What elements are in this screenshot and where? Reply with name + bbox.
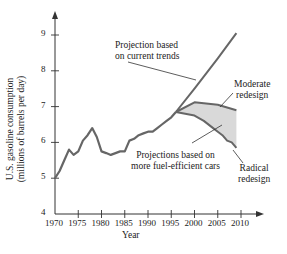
annotation-fuel-efficient: Projections based on more fuel-efficient… <box>131 150 220 172</box>
proj-leader <box>128 62 196 80</box>
annotation-fuel-efficient-line1: Projections based on <box>131 150 220 161</box>
annotation-moderate-line1: Moderate <box>234 79 270 90</box>
y-tick-label: 8 <box>41 64 46 75</box>
annotation-current-trends-line1: Projection based <box>115 40 179 51</box>
annotation-radical: Radical redesign <box>238 163 270 185</box>
y-axis-label: U.S. gasoline consumption (millions of b… <box>5 69 27 189</box>
annotation-current-trends-line2: on current trends <box>115 51 179 62</box>
fuel-leader <box>192 125 222 143</box>
current-trends-line <box>176 33 237 112</box>
y-tick-label: 9 <box>41 28 46 39</box>
y-tick-label: 6 <box>41 135 46 146</box>
y-axis-label-line1: U.S. gasoline consumption <box>5 69 16 189</box>
x-tick-label: 1970 <box>45 218 63 229</box>
annotation-radical-line1: Radical <box>238 163 270 174</box>
x-tick-label: 1980 <box>92 218 110 229</box>
annotation-current-trends: Projection based on current trends <box>115 40 179 62</box>
y-tick-label: 4 <box>41 207 46 218</box>
x-tick-label: 2000 <box>185 218 203 229</box>
y-tick-label: 7 <box>41 100 46 111</box>
x-tick-label: 1995 <box>161 218 179 229</box>
y-tick-label: 5 <box>41 171 46 182</box>
x-axis-arrow-icon <box>256 211 264 217</box>
moderate-leader <box>220 93 233 107</box>
annotation-fuel-efficient-line2: more fuel-efficient cars <box>131 161 220 172</box>
x-tick-label: 2010 <box>231 218 249 229</box>
y-axis-arrow-icon <box>52 11 58 19</box>
annotation-moderate: Moderate redesign <box>234 79 270 101</box>
y-axis-label-line2: (millions of barrels per day) <box>16 69 27 189</box>
annotation-moderate-line2: redesign <box>234 90 270 101</box>
x-tick-label: 1990 <box>138 218 156 229</box>
annotation-radical-line2: redesign <box>238 174 270 185</box>
x-tick-label: 1985 <box>115 218 133 229</box>
x-tick-label: 2005 <box>208 218 226 229</box>
x-tick-label: 1975 <box>68 218 86 229</box>
x-axis-label: Year <box>122 230 140 241</box>
radical-leader <box>233 150 243 163</box>
